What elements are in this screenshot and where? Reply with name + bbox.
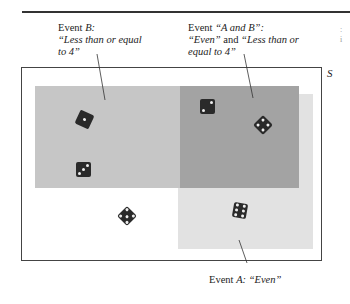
event-a-label: Event A: “Even” [209, 274, 281, 286]
leader-lines [0, 0, 350, 304]
die-two [200, 99, 215, 114]
die-six [232, 202, 248, 219]
die-three [76, 162, 91, 177]
